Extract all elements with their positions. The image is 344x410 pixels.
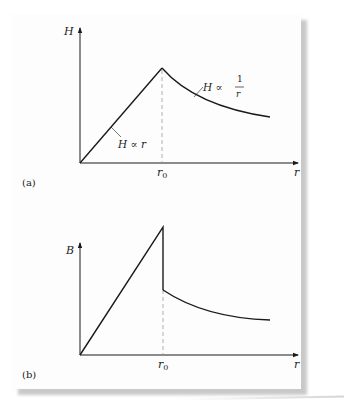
- y-axis-label-b: B: [65, 244, 74, 257]
- annotation-h-prop-inv-r: H ∝ 1 r: [202, 74, 244, 99]
- panel-a: H r r0 (a) H ∝ r H ∝ 1 r: [22, 25, 300, 188]
- x-axis-label-b: r: [294, 358, 300, 371]
- svg-text:r: r: [236, 89, 241, 99]
- panel-b: B r r0 (b): [22, 227, 300, 380]
- linear-curve-with-drop-b: [80, 227, 163, 355]
- r0-tick-label-a: r0: [157, 166, 167, 180]
- y-axis-label-a: H: [63, 25, 74, 38]
- r0-tick-label-b: r0: [158, 358, 168, 372]
- leader-line-inner: [111, 127, 121, 137]
- panel-label-b: (b): [22, 369, 36, 380]
- x-axis-label-a: r: [294, 166, 300, 179]
- inverse-curve-b: [163, 290, 270, 320]
- field-diagram: H r r0 (a) H ∝ r H ∝ 1 r B r r0 (b): [0, 0, 344, 410]
- svg-text:H ∝: H ∝: [202, 81, 223, 93]
- panel-label-a: (a): [22, 177, 36, 188]
- annotation-h-prop-r: H ∝ r: [117, 138, 147, 150]
- svg-text:1: 1: [237, 74, 243, 84]
